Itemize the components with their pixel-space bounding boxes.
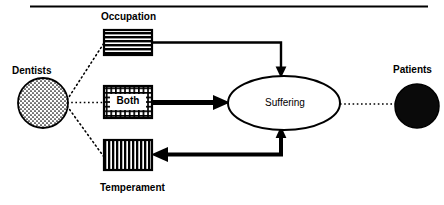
diagram-svg <box>0 0 444 205</box>
edge-dentists-to-temperament <box>67 106 104 157</box>
node-dentists[interactable] <box>18 78 68 128</box>
node-patients[interactable] <box>395 84 439 128</box>
node-occupation[interactable] <box>104 30 152 55</box>
figure-canvas: Occupation Temperament Dentists Patients… <box>0 0 444 205</box>
label-patients: Patients <box>393 64 432 75</box>
label-temperament: Temperament <box>100 182 165 193</box>
label-occupation: Occupation <box>101 11 156 22</box>
label-dentists: Dentists <box>12 65 51 76</box>
arrowhead-into-temperament <box>151 147 168 162</box>
edge-dentists-to-occupation <box>67 43 104 100</box>
label-both: Both <box>104 95 152 106</box>
edge-occupation-to-suffering <box>152 43 281 70</box>
node-temperament[interactable] <box>104 140 152 170</box>
label-suffering: Suffering <box>230 97 340 108</box>
edge-suffering-to-temperament <box>165 131 281 155</box>
